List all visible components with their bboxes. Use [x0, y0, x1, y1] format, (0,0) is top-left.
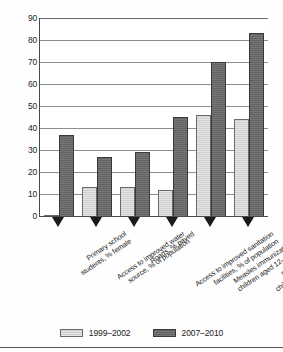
chart-figure: 9080706050403020100 Primary schoolstuden…: [0, 0, 283, 352]
y-tick-0: 0: [32, 212, 37, 221]
bar: [120, 187, 135, 216]
bar-group: [154, 18, 192, 216]
bar: [234, 119, 249, 216]
y-tick-70: 70: [28, 58, 37, 67]
y-tick-50: 50: [28, 102, 37, 111]
bar: [97, 157, 112, 216]
legend-swatch-dark: [153, 329, 176, 337]
bottom-divider: [0, 347, 283, 348]
legend-item[interactable]: 2007–2010: [153, 328, 224, 338]
triangle-icon: [166, 217, 178, 227]
chart-legend: 1999–20022007–2010: [0, 325, 283, 341]
y-tick-60: 60: [28, 80, 37, 89]
plot-area: [39, 18, 268, 217]
bar: [82, 187, 97, 216]
bar: [59, 135, 74, 216]
bar-group: [192, 18, 230, 216]
bar: [173, 117, 188, 216]
y-axis-tick-labels: 9080706050403020100: [0, 0, 40, 232]
triangle-icon: [52, 217, 64, 227]
y-tick-10: 10: [28, 190, 37, 199]
legend-label: 1999–2002: [89, 328, 131, 338]
y-tick-20: 20: [28, 168, 37, 177]
bar: [196, 115, 211, 216]
y-tick-90: 90: [28, 14, 37, 23]
bar: [44, 215, 59, 216]
y-tick-40: 40: [28, 124, 37, 133]
bar-group: [40, 18, 78, 216]
bar: [249, 33, 264, 216]
legend-item[interactable]: 1999–2002: [60, 328, 131, 338]
bar-group: [230, 18, 268, 216]
triangle-icon: [204, 217, 216, 227]
plot-area-wrapper: 9080706050403020100: [0, 0, 283, 232]
bar-group: [116, 18, 154, 216]
legend-label: 2007–2010: [182, 328, 224, 338]
triangle-icon: [128, 217, 140, 227]
bar-group: [78, 18, 116, 216]
legend-swatch-light: [60, 329, 83, 337]
bar: [211, 62, 226, 216]
bar: [135, 152, 150, 216]
x-axis-category-labels: Primary schoolstudents, % femaleAccess t…: [0, 228, 283, 308]
triangle-icon: [90, 217, 102, 227]
y-tick-30: 30: [28, 146, 37, 155]
bar-groups: [40, 18, 268, 216]
triangle-icon: [242, 217, 254, 227]
y-tick-80: 80: [28, 36, 37, 45]
bar: [158, 190, 173, 216]
